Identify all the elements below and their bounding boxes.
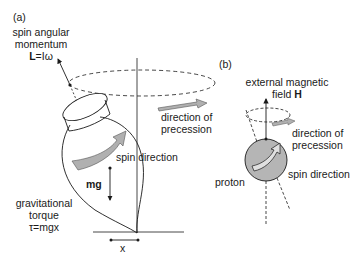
top-cap: [59, 88, 111, 126]
external-magnetic-field-label: external magnetic field H: [245, 76, 329, 100]
spin-angular-momentum-label: spin angular momentum L=Iω: [10, 26, 72, 62]
proton-precession-path: [246, 108, 290, 122]
panel-a-label: (a): [13, 11, 26, 23]
gravitational-torque-label: gravitational torque τ=mgx: [14, 197, 74, 233]
direction-of-precession-label-b: direction of precession: [292, 127, 343, 151]
direction-of-precession-label-a: direction of precession: [161, 111, 212, 135]
panel-b-label: (b): [219, 58, 232, 70]
proton-precession-arrow: [272, 118, 295, 126]
angular-momentum-formula: L=Iω: [10, 50, 72, 62]
mg-label: mg: [86, 178, 102, 190]
precession-arrow: [158, 99, 207, 111]
top-body: [62, 117, 143, 233]
proton-diagram: [245, 99, 295, 226]
proton-label: proton: [215, 176, 245, 188]
x-label: x: [120, 242, 125, 254]
spinning-top-diagram: [58, 58, 215, 242]
spin-direction-label-a: spin direction: [116, 151, 178, 163]
precession-path: [69, 70, 215, 96]
spin-direction-label-b: spin direction: [288, 168, 350, 180]
angular-momentum-arrow: [58, 59, 70, 85]
